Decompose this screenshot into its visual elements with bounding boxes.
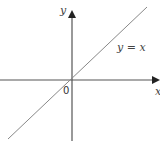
identity-line: [8, 7, 147, 139]
origin-label: 0: [63, 86, 69, 96]
y-axis-label: y: [60, 5, 66, 16]
x-axis-arrow-icon: [152, 76, 160, 84]
line-label: y = x: [117, 42, 146, 53]
y-axis-arrow-icon: [68, 10, 76, 18]
x-axis-label: x: [155, 86, 160, 97]
axes-graphic: [0, 0, 160, 141]
